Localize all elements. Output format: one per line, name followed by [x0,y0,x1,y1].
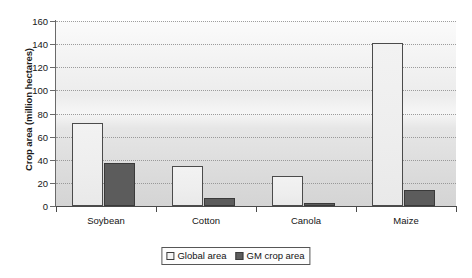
y-tick-label-140: 140 [14,39,48,50]
global-area-swatch [166,252,174,260]
x-tick-mark-2 [256,206,257,212]
y-tick-mark-120 [50,67,56,68]
y-tick-mark-160 [50,21,56,22]
clipped-caption-strip [0,272,472,278]
legend-label-gm-crop-area: GM crop area [247,250,305,261]
y-tick-mark-0 [50,206,56,207]
y-axis-tick-labels: 020406080100120140160 [8,0,48,278]
y-tick-label-40: 40 [14,154,48,165]
plot-area [56,21,456,206]
x-axis-label-cotton: Cotton [156,215,256,226]
gridline-160 [56,21,456,22]
y-tick-mark-60 [50,137,56,138]
y-tick-mark-80 [50,114,56,115]
x-axis-label-canola: Canola [256,215,356,226]
y-tick-mark-40 [50,160,56,161]
x-tick-mark-3 [356,206,357,212]
y-tick-mark-20 [50,183,56,184]
x-axis-label-maize: Maize [356,215,456,226]
x-tick-mark-edge-0 [56,206,57,212]
legend-entry-gm-crop-area: GM crop area [236,250,305,261]
x-tick-mark-edge-4 [456,206,457,212]
y-tick-label-120: 120 [14,62,48,73]
bar-soybean-global-area [72,123,103,206]
bar-chart-figure: Crop area (million hectares) 02040608010… [0,0,472,278]
y-tick-label-80: 80 [14,108,48,119]
y-tick-mark-100 [50,90,56,91]
bar-maize-gm-crop-area [404,190,435,206]
chart-legend: Global areaGM crop area [161,247,310,265]
y-tick-mark-140 [50,44,56,45]
gm-crop-area-swatch [236,252,244,260]
y-tick-label-100: 100 [14,85,48,96]
y-tick-label-160: 160 [14,16,48,27]
x-tick-mark-1 [156,206,157,212]
bar-cotton-gm-crop-area [204,198,235,206]
x-axis-label-soybean: Soybean [56,215,156,226]
legend-entry-global-area: Global area [166,250,226,261]
bar-soybean-gm-crop-area [104,163,135,206]
bar-maize-global-area [372,43,403,206]
y-tick-label-60: 60 [14,131,48,142]
y-tick-label-0: 0 [14,201,48,212]
bar-cotton-global-area [172,166,203,206]
y-tick-label-20: 20 [14,177,48,188]
legend-label-global-area: Global area [177,250,226,261]
bar-canola-global-area [272,176,303,206]
